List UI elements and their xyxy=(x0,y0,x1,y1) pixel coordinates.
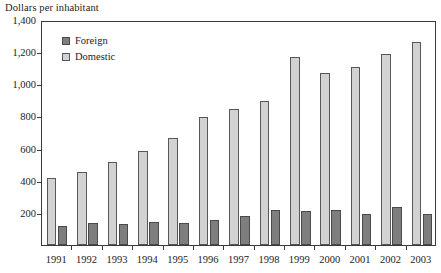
legend-item-label: Domestic xyxy=(75,51,115,63)
bar-group xyxy=(285,22,315,245)
chart-title: Dollars per inhabitant xyxy=(5,1,99,14)
y-axis-tick-mark xyxy=(37,150,41,151)
x-axis-tick-mark xyxy=(284,246,285,250)
y-axis-tick-mark xyxy=(37,53,41,54)
x-axis-tick-mark xyxy=(406,246,407,250)
bar-foreign[interactable] xyxy=(119,224,129,245)
x-axis-tick-label: 1999 xyxy=(284,254,314,266)
bar-group xyxy=(224,22,254,245)
bar-foreign[interactable] xyxy=(271,210,281,245)
bar-domestic[interactable] xyxy=(290,57,300,245)
bar-foreign[interactable] xyxy=(301,211,311,245)
x-axis-tick-label: 1996 xyxy=(193,254,223,266)
bar-foreign[interactable] xyxy=(179,223,189,245)
x-axis-tick-mark xyxy=(71,246,72,250)
x-axis-tick-mark xyxy=(163,246,164,250)
x-axis-tick-mark xyxy=(254,246,255,250)
bar-group xyxy=(133,22,163,245)
x-axis-tick-mark xyxy=(375,246,376,250)
bar-foreign[interactable] xyxy=(362,214,372,245)
y-axis-tick-mark xyxy=(37,182,41,183)
bar-domestic[interactable] xyxy=(229,109,239,245)
x-axis-tick-mark xyxy=(132,246,133,250)
y-axis-tick-label: 1,200 xyxy=(12,48,36,58)
x-axis-tick-label: 2002 xyxy=(375,254,405,266)
bar-domestic[interactable] xyxy=(351,67,361,245)
x-axis-tick-label: 1994 xyxy=(132,254,162,266)
bar-foreign[interactable] xyxy=(88,223,98,246)
y-axis-tick-label: 200 xyxy=(20,209,36,219)
legend-item[interactable]: Domestic xyxy=(62,50,115,64)
bar-domestic[interactable] xyxy=(320,73,330,245)
y-axis-tick-mark xyxy=(37,117,41,118)
y-axis-tick-label: 600 xyxy=(20,145,36,155)
bar-group xyxy=(164,22,194,245)
bar-foreign[interactable] xyxy=(423,214,433,245)
y-axis-tick-label: 1,400 xyxy=(12,16,36,26)
y-axis-tick-mark xyxy=(37,85,41,86)
bar-group xyxy=(194,22,224,245)
x-axis-tick-mark xyxy=(345,246,346,250)
bar-group xyxy=(315,22,345,245)
x-axis-tick-label: 1995 xyxy=(163,254,193,266)
x-axis-tick-label: 1993 xyxy=(102,254,132,266)
y-axis-tick-mark xyxy=(37,214,41,215)
legend-item-label: Foreign xyxy=(75,35,108,47)
x-axis-tick-label: 1991 xyxy=(41,254,71,266)
bar-domestic[interactable] xyxy=(412,42,422,245)
bar-group xyxy=(407,22,437,245)
bar-domestic[interactable] xyxy=(108,162,118,245)
x-axis-tick-label: 1998 xyxy=(254,254,284,266)
x-axis-tick-mark xyxy=(193,246,194,250)
bar-domestic[interactable] xyxy=(260,101,270,245)
x-axis-tick-label: 2003 xyxy=(406,254,436,266)
x-axis-tick-label: 2000 xyxy=(314,254,344,266)
x-axis-tick-mark xyxy=(223,246,224,250)
y-axis-tick-label: 800 xyxy=(20,112,36,122)
bar-foreign[interactable] xyxy=(240,216,250,245)
bar-foreign[interactable] xyxy=(58,226,68,245)
bar-domestic[interactable] xyxy=(168,138,178,245)
x-axis-tick-label: 1997 xyxy=(223,254,253,266)
x-axis-tick-label: 2001 xyxy=(345,254,375,266)
bar-domestic[interactable] xyxy=(138,151,148,245)
bar-foreign[interactable] xyxy=(392,207,402,245)
bar-domestic[interactable] xyxy=(381,54,391,245)
bar-domestic[interactable] xyxy=(47,178,57,245)
bar-group xyxy=(376,22,406,245)
bar-foreign[interactable] xyxy=(331,210,341,245)
bar-foreign[interactable] xyxy=(210,220,220,245)
bar-group xyxy=(255,22,285,245)
legend-swatch-icon xyxy=(62,37,70,45)
chart-legend: ForeignDomestic xyxy=(62,34,115,66)
bar-foreign[interactable] xyxy=(149,222,159,245)
legend-swatch-icon xyxy=(62,53,70,61)
x-axis-tick-mark xyxy=(314,246,315,250)
bar-group xyxy=(346,22,376,245)
x-axis-tick-label: 1992 xyxy=(71,254,101,266)
bar-domestic[interactable] xyxy=(77,172,87,245)
bar-chart: Dollars per inhabitant ForeignDomestic 1… xyxy=(0,0,441,273)
x-axis-tick-mark xyxy=(102,246,103,250)
bar-domestic[interactable] xyxy=(199,117,209,245)
y-axis-tick-label: 1,000 xyxy=(12,80,36,90)
legend-item[interactable]: Foreign xyxy=(62,34,115,48)
y-axis-tick-label: 400 xyxy=(20,177,36,187)
